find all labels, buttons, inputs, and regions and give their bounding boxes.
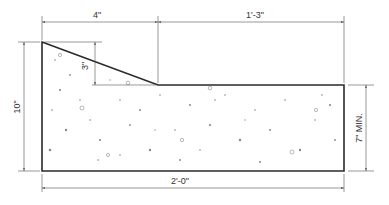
dim-top-right: 1'-3" — [246, 10, 264, 20]
concrete-section — [42, 42, 344, 171]
dim-top-left: 4" — [93, 10, 101, 20]
dim-min-depth: 7" MIN. — [354, 113, 364, 143]
dim-overall-width: 2'-0" — [171, 176, 189, 186]
dim-slope-drop: 3" — [80, 62, 90, 70]
section-outline — [42, 42, 344, 171]
dim-overall-height: 10" — [12, 100, 22, 113]
curb-section-drawing: 4" 1'-3" 3" 10" 7" MIN. 2'-0" — [0, 0, 389, 205]
bottom-dimension — [42, 174, 344, 192]
